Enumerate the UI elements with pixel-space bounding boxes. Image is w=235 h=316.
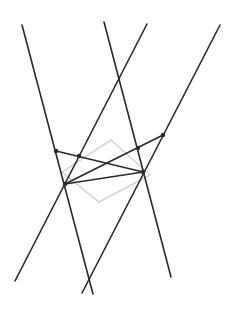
diagram-svg (0, 0, 235, 316)
geometry-diagram (0, 0, 235, 316)
point-p5 (63, 182, 67, 186)
point-p2 (77, 154, 81, 158)
point-p6 (141, 170, 145, 174)
segment-a (56, 151, 143, 172)
line-4 (82, 25, 220, 293)
point-p1 (54, 149, 58, 153)
point-p3 (136, 146, 140, 150)
point-p4 (161, 133, 165, 137)
line-set (15, 22, 220, 294)
